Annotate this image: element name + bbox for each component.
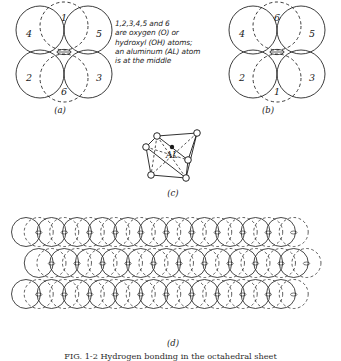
sheet-atom-back xyxy=(228,280,257,309)
sheet-atom-front xyxy=(228,249,257,278)
sheet-atom-back xyxy=(24,280,53,309)
sheet-atom-front xyxy=(254,249,283,278)
panel-a-atom-3-label: 3 xyxy=(96,72,102,83)
note-line-4: an aluminum (AL) atom xyxy=(115,47,219,56)
aluminum-atom-dot xyxy=(170,145,174,149)
panel-b-atom-4-label: 4 xyxy=(238,28,245,39)
sheet-atom-front xyxy=(279,249,308,278)
sheet-atom-front xyxy=(216,218,245,247)
sheet-atom-front xyxy=(114,280,143,309)
sheet-atom-front xyxy=(267,280,296,309)
sheet-atom-front xyxy=(177,249,206,278)
sheet-aluminum-site xyxy=(112,293,118,296)
sheet-aluminum-site xyxy=(303,262,309,265)
sheet-aluminum-site xyxy=(163,231,169,234)
sheet-atom-front xyxy=(63,218,92,247)
sheet-atom-front xyxy=(165,218,194,247)
sheet-aluminum-site xyxy=(189,231,195,234)
octahedron-vertex-1 xyxy=(194,130,201,137)
sheet-atom-front xyxy=(241,218,270,247)
sheet-atom-back xyxy=(152,218,181,247)
panel-caption-a: (a) xyxy=(40,105,80,115)
panel-b-atom-5-label: 5 xyxy=(309,28,315,39)
panel-a-atom-6-label: 6 xyxy=(61,86,67,97)
sheet-aluminum-site xyxy=(201,262,207,265)
note-line-3: hydroxyl (OH) atoms; xyxy=(115,38,219,47)
sheet-aluminum-site xyxy=(48,262,54,265)
sheet-aluminum-site xyxy=(214,231,220,234)
sheet-atom-front xyxy=(203,249,232,278)
panel-a-atom-2-label: 2 xyxy=(25,72,32,83)
sheet-aluminum-site xyxy=(112,231,118,234)
sheet-atom-back xyxy=(254,218,283,247)
panel-caption-d: (d) xyxy=(153,338,193,348)
sheet-atom-back xyxy=(190,249,219,278)
octahedron-vertex-0 xyxy=(154,133,161,140)
panel-a-atom-4-label: 4 xyxy=(25,28,32,39)
sheet-aluminum-site xyxy=(227,262,233,265)
octahedron-edge-0 xyxy=(157,133,197,136)
octahedron-edge-3 xyxy=(146,147,151,175)
sheet-atom-back xyxy=(279,280,308,309)
octahedron-vertex-5 xyxy=(183,175,190,182)
sheet-atom-front xyxy=(165,280,194,309)
sheet-atom-front xyxy=(216,280,245,309)
panel-b-atom-6-label: 6 xyxy=(274,12,280,23)
panel-b-atom-3-label: 3 xyxy=(309,72,315,83)
sheet-atom-back xyxy=(62,249,91,278)
sheet-aluminum-site xyxy=(252,262,258,265)
sheet-aluminum-site xyxy=(125,262,131,265)
sheet-atom-front xyxy=(63,280,92,309)
panel-caption-c: (c) xyxy=(153,188,193,198)
sheet-atom-front xyxy=(241,280,270,309)
panel-caption-b: (b) xyxy=(248,105,288,115)
sheet-aluminum-site xyxy=(36,293,42,296)
sheet-atom-back xyxy=(101,218,130,247)
panel-b-atom-1-label: 1 xyxy=(274,86,280,97)
sheet-atom-back xyxy=(241,249,270,278)
octahedral-unit-view-b: 645231 xyxy=(229,2,325,102)
note-line-5: is at the middle xyxy=(115,56,219,65)
sheet-atom-back xyxy=(126,280,155,309)
explanatory-note: 1,2,3,4,5 and 6 are oxygen (O) or hydrox… xyxy=(115,19,219,65)
sheet-atom-back xyxy=(228,218,257,247)
panel-b-atom-5-circle xyxy=(277,6,325,54)
panel-a-atom-1-label: 1 xyxy=(61,12,67,23)
sheet-atom-front xyxy=(139,280,168,309)
sheet-aluminum-site xyxy=(87,293,93,296)
sheet-atom-front xyxy=(152,249,181,278)
sheet-atom-front xyxy=(88,280,117,309)
sheet-atom-back xyxy=(101,280,130,309)
sheet-atom-front xyxy=(37,218,66,247)
sheet-aluminum-site xyxy=(291,293,297,296)
panel-b-atom-2-circle xyxy=(229,50,277,98)
sheet-atom-back xyxy=(177,280,206,309)
sheet-atom-front xyxy=(139,218,168,247)
sheet-aluminum-site xyxy=(150,262,156,265)
sheet-atom-back xyxy=(279,218,308,247)
sheet-atom-front xyxy=(12,280,41,309)
sheet-atom-back xyxy=(254,280,283,309)
sheet-atom-back xyxy=(215,249,244,278)
sheet-atom-back xyxy=(50,280,79,309)
sheet-atom-back xyxy=(37,249,66,278)
sheet-aluminum-site xyxy=(240,231,246,234)
sheet-atom-back xyxy=(88,249,117,278)
octahedron-hidden-edge-1 xyxy=(151,136,157,175)
sheet-atom-back xyxy=(203,280,232,309)
sheet-aluminum-site xyxy=(291,231,297,234)
sheet-aluminum-site xyxy=(138,293,144,296)
sheet-aluminum-site xyxy=(163,293,169,296)
sheet-atom-back xyxy=(24,218,53,247)
sheet-atom-front xyxy=(126,249,155,278)
sheet-atom-back xyxy=(292,249,321,278)
octahedral-sheet xyxy=(12,218,321,309)
sheet-aluminum-site xyxy=(214,293,220,296)
sheet-atom-front xyxy=(24,249,53,278)
sheet-aluminum-site xyxy=(61,293,67,296)
octahedron-vertex-2 xyxy=(143,144,150,151)
sheet-aluminum-site xyxy=(99,262,105,265)
figure-caption: FIG. 1-2 Hydrogen bonding in the octahed… xyxy=(0,351,341,361)
panel-a-atom-5-label: 5 xyxy=(96,28,102,39)
sheet-atom-front xyxy=(50,249,79,278)
